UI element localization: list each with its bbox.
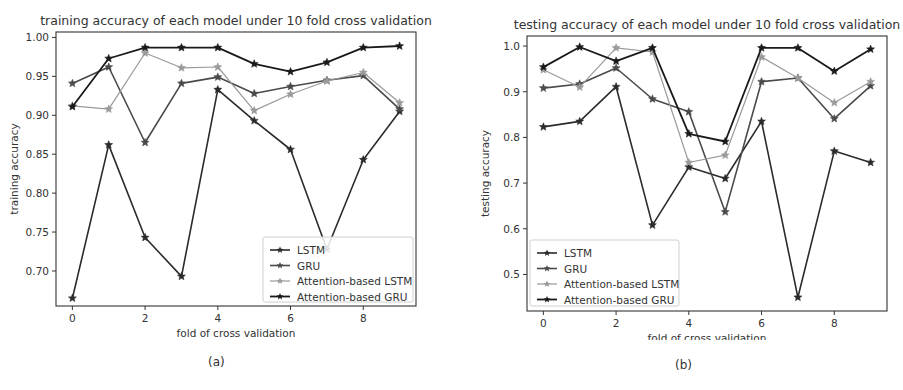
x-tick-label: 8 [831, 317, 838, 329]
star-marker-icon [287, 82, 295, 90]
star-marker-icon [323, 77, 331, 85]
star-marker-icon [396, 42, 404, 50]
y-tick-label: 0.80 [26, 187, 49, 199]
x-axis-label: fold of cross validation [177, 327, 296, 339]
legend-label: Attention-based LSTM [564, 278, 679, 290]
x-tick-label: 2 [142, 312, 149, 324]
star-marker-icon [323, 58, 331, 66]
x-tick-label: 6 [758, 317, 765, 329]
star-marker-icon [105, 63, 113, 71]
star-marker-icon [721, 151, 729, 159]
star-marker-icon [287, 68, 295, 76]
chart-testing-accuracy: testing accuracy of each model under 10 … [450, 0, 903, 340]
star-marker-icon [539, 84, 547, 92]
x-tick-label: 4 [685, 317, 692, 329]
y-axis-label: testing accuracy [479, 130, 491, 217]
star-marker-icon [830, 99, 838, 107]
star-marker-icon [178, 64, 186, 72]
star-marker-icon [794, 293, 802, 301]
x-axis-label: fold of cross validation [648, 332, 767, 340]
y-tick-label: 0.6 [503, 223, 520, 235]
x-tick-label: 8 [360, 312, 367, 324]
y-tick-label: 0.90 [26, 109, 49, 121]
series-line [543, 68, 870, 212]
legend-label: LSTM [297, 244, 325, 256]
star-marker-icon [867, 158, 875, 166]
chart-b-panel: testing accuracy of each model under 10 … [450, 0, 903, 390]
star-marker-icon [721, 137, 729, 145]
star-marker-icon [359, 43, 367, 51]
subfigure-label-a: (a) [208, 355, 225, 369]
y-tick-label: 1.00 [26, 31, 49, 43]
legend-label: GRU [564, 263, 587, 275]
series-attention-based-lstm [539, 44, 874, 166]
subfigure-label-b: (b) [675, 358, 692, 372]
star-marker-icon [68, 294, 76, 302]
chart-title: training accuracy of each model under 10… [40, 13, 432, 28]
star-marker-icon [721, 208, 729, 216]
chart-title: testing accuracy of each model under 10 … [514, 17, 901, 32]
star-marker-icon [68, 79, 76, 87]
series-attention-based-gru [539, 43, 874, 145]
series-line [72, 53, 399, 111]
star-marker-icon [214, 73, 222, 81]
series-line [72, 46, 399, 107]
legend-label: GRU [297, 260, 320, 272]
chart-training-accuracy: training accuracy of each model under 10… [0, 0, 450, 340]
star-marker-icon [250, 60, 258, 68]
legend-label: LSTM [564, 247, 592, 259]
legend: LSTMGRUAttention-based LSTMAttention-bas… [263, 237, 413, 303]
legend-label: Attention-based LSTM [297, 275, 412, 287]
x-tick-label: 0 [69, 312, 76, 324]
star-marker-icon [214, 63, 222, 71]
x-tick-label: 2 [613, 317, 620, 329]
y-tick-label: 0.5 [503, 268, 520, 280]
star-marker-icon [214, 43, 222, 51]
legend-label: Attention-based GRU [564, 294, 674, 306]
x-tick-label: 6 [287, 312, 294, 324]
star-marker-icon [178, 43, 186, 51]
y-tick-label: 0.70 [26, 265, 49, 277]
y-tick-label: 0.9 [503, 86, 520, 98]
legend-label: Attention-based GRU [297, 291, 407, 303]
y-tick-label: 0.8 [503, 131, 520, 143]
y-axis-label: training accuracy [8, 123, 20, 214]
y-tick-label: 0.7 [503, 177, 520, 189]
x-tick-label: 0 [540, 317, 547, 329]
x-tick-label: 4 [214, 312, 221, 324]
star-marker-icon [105, 105, 113, 113]
y-tick-label: 0.75 [26, 226, 49, 238]
y-tick-label: 1.0 [503, 40, 520, 52]
star-marker-icon [539, 123, 547, 131]
star-marker-icon [685, 130, 693, 138]
y-tick-label: 0.85 [26, 148, 49, 160]
star-marker-icon [141, 49, 149, 57]
series-attention-based-gru [68, 42, 403, 110]
star-marker-icon [830, 67, 838, 75]
star-marker-icon [287, 90, 295, 98]
legend: LSTMGRUAttention-based LSTMAttention-bas… [530, 240, 679, 306]
chart-a-panel: training accuracy of each model under 10… [0, 0, 450, 390]
star-marker-icon [178, 79, 186, 87]
star-marker-icon [250, 89, 258, 97]
y-tick-label: 0.95 [26, 70, 49, 82]
